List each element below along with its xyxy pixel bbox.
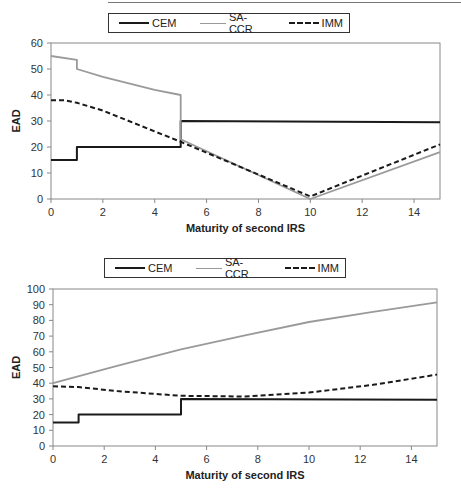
y-tick-label: 90 [33, 299, 45, 311]
y-axis-title: EAD [10, 356, 22, 379]
x-tick-label: 10 [303, 453, 315, 465]
y-tick-label: 50 [33, 362, 45, 374]
x-axis-title: Maturity of second IRS [185, 469, 304, 481]
y-tick-label: 0 [39, 440, 45, 452]
series-sa-ccr [53, 302, 437, 383]
y-tick-label: 30 [33, 393, 45, 405]
x-tick-label: 4 [152, 453, 158, 465]
x-tick-label: 2 [101, 453, 107, 465]
x-tick-label: 12 [354, 453, 366, 465]
y-tick-label: 40 [33, 377, 45, 389]
y-tick-label: 10 [33, 424, 45, 436]
y-tick-label: 80 [33, 314, 45, 326]
series-imm [53, 375, 437, 397]
x-tick-label: 0 [50, 453, 56, 465]
y-tick-label: 70 [33, 330, 45, 342]
x-tick-label: 6 [204, 453, 210, 465]
x-tick-label: 14 [405, 453, 417, 465]
series-cem [53, 399, 437, 423]
y-tick-label: 100 [27, 283, 45, 295]
y-tick-label: 60 [33, 346, 45, 358]
chart-2: 010203040506070809010002468101214Maturit… [0, 0, 461, 491]
x-tick-label: 8 [255, 453, 261, 465]
y-tick-label: 20 [33, 409, 45, 421]
